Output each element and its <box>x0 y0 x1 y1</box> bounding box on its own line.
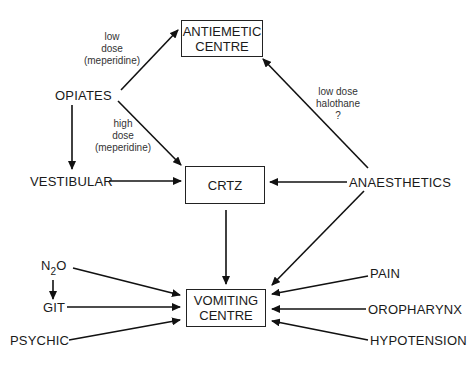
n2o-o: O <box>56 258 66 273</box>
antiemetic-centre-box: ANTIEMETIC CENTRE <box>181 20 263 57</box>
anaesthetics-node: ANAESTHETICS <box>349 176 451 189</box>
hypotension-node: HYPOTENSION <box>370 334 467 347</box>
psychic-node: PSYCHIC <box>10 334 69 347</box>
low-dose-l3: (meperidine) <box>82 55 142 67</box>
edge-anaesthetics-vomiting <box>272 191 364 285</box>
pain-node: PAIN <box>370 267 400 280</box>
halothane-annotation: low dose halothane ? <box>308 86 368 122</box>
git-node: GIT <box>43 301 65 314</box>
antiemetic-line1: ANTIEMETIC <box>183 24 262 39</box>
vestibular-node: VESTIBULAR <box>30 175 113 188</box>
n2o-n: N <box>41 258 51 273</box>
crtz-box: CRTZ <box>185 166 265 204</box>
high-dose-l2: dose <box>93 130 153 142</box>
low-dose-annotation: low dose (meperidine) <box>82 31 142 67</box>
halothane-l3: ? <box>308 110 368 122</box>
n2o-subscript: 2 <box>51 266 57 277</box>
vomiting-centre-box: VOMITING CENTRE <box>186 289 266 327</box>
edge-hypotension-vomiting <box>272 321 368 340</box>
high-dose-annotation: high dose (meperidine) <box>93 118 153 154</box>
halothane-l2: halothane <box>308 98 368 110</box>
high-dose-l3: (meperidine) <box>93 142 153 154</box>
vomiting-line2: CENTRE <box>199 308 252 323</box>
high-dose-l1: high <box>93 118 153 130</box>
crtz-label: CRTZ <box>208 178 242 193</box>
edge-n2o-vomiting <box>73 268 180 295</box>
edge-psychic-vomiting <box>69 320 180 340</box>
n2o-node: N2O <box>41 259 67 272</box>
oropharynx-node: OROPHARYNX <box>368 303 462 316</box>
opiates-node: OPIATES <box>55 89 112 102</box>
edge-pain-vomiting <box>272 276 368 294</box>
vomiting-line1: VOMITING <box>194 293 258 308</box>
halothane-l1: low dose <box>308 86 368 98</box>
antiemetic-line2: CENTRE <box>195 39 248 54</box>
low-dose-l1: low <box>82 31 142 43</box>
low-dose-l2: dose <box>82 43 142 55</box>
